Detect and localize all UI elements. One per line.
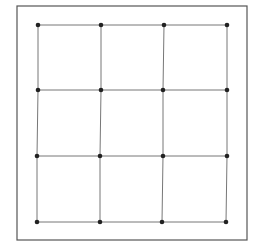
grid-edge-vertical <box>100 90 101 156</box>
grid-node-dot-icon <box>161 154 166 159</box>
grid-node-dot-icon <box>99 88 104 93</box>
grid-node-dot-icon <box>225 88 230 93</box>
grid-node-dot-icon <box>162 23 167 28</box>
grid-node-dot-icon <box>36 88 41 93</box>
grid-node-dot-icon <box>98 220 103 225</box>
grid-node-dot-icon <box>225 154 230 159</box>
grid-edge-vertical <box>226 156 227 222</box>
grid-node-dot-icon <box>35 154 40 159</box>
grid-node-dot-icon <box>161 88 166 93</box>
grid-diagram <box>0 0 261 244</box>
grid-node-dot-icon <box>35 220 40 225</box>
grid-lines <box>37 25 227 222</box>
grid-node-dot-icon <box>224 220 229 225</box>
grid-node-dot-icon <box>160 220 165 225</box>
grid-node-dot-icon <box>98 154 103 159</box>
grid-edge-vertical <box>162 156 163 222</box>
grid-node-dot-icon <box>99 23 104 28</box>
grid-edge-vertical <box>37 90 38 156</box>
grid-node-dot-icon <box>225 23 230 28</box>
grid-node-dot-icon <box>36 23 41 28</box>
outer-frame <box>17 6 247 240</box>
grid-nodes <box>35 23 230 225</box>
grid-edge-vertical <box>163 25 164 90</box>
